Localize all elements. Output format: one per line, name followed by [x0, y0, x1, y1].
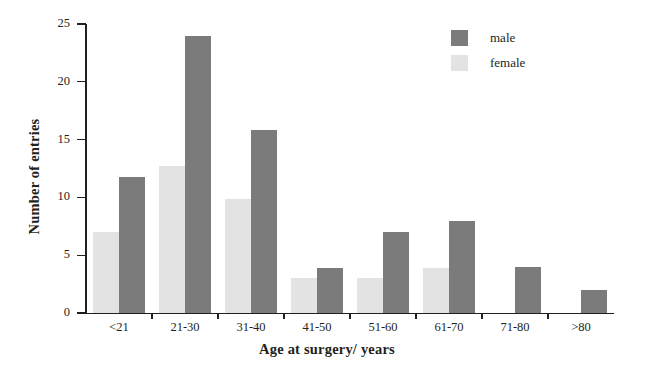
legend-label: male — [490, 30, 515, 46]
bar-female-<21 — [93, 232, 119, 313]
bar-female-41-50 — [291, 278, 317, 313]
x-tick-mark — [151, 313, 153, 319]
bar-female-21-30 — [159, 166, 185, 313]
y-tick-label: 15 — [24, 132, 70, 147]
x-tick-mark — [481, 313, 483, 319]
bar-male-31-40 — [251, 130, 277, 313]
bar-male-<21 — [119, 177, 145, 313]
y-tick-mark — [77, 197, 86, 198]
x-tick-mark — [349, 313, 351, 319]
bar-chart: Number of entries 0510152025 <2121-3031-… — [0, 0, 654, 374]
y-tick-label: 5 — [24, 247, 70, 262]
legend-swatch-icon — [451, 55, 468, 71]
y-tick-mark — [77, 81, 86, 82]
legend-swatch-icon — [451, 30, 468, 46]
y-tick-label: 20 — [24, 74, 70, 89]
bar-male-41-50 — [317, 268, 343, 313]
bar-male-71-80 — [515, 267, 541, 313]
x-tick-mark — [217, 313, 219, 319]
y-tick-mark — [77, 23, 86, 24]
y-tick-mark — [77, 139, 86, 140]
bar-male-61-70 — [449, 221, 475, 313]
legend-item-female: female — [451, 50, 611, 75]
bar-female-51-60 — [357, 278, 383, 313]
bar-male-51-60 — [383, 232, 409, 313]
chart-legend: malefemale — [451, 25, 611, 75]
bar-male-21-30 — [185, 36, 211, 313]
y-tick-label: 10 — [24, 189, 70, 204]
bar-female-61-70 — [423, 268, 449, 313]
x-tick-mark — [283, 313, 285, 319]
x-tick-mark — [547, 313, 549, 319]
x-axis-title: Age at surgery/ years — [0, 341, 654, 358]
y-tick-mark — [77, 255, 86, 256]
y-tick-label: 0 — [24, 305, 70, 320]
y-tick-label: 25 — [24, 16, 70, 31]
bar-male->80 — [581, 290, 607, 313]
legend-label: female — [490, 55, 525, 71]
x-tick-mark — [415, 313, 417, 319]
bar-female-31-40 — [225, 199, 251, 313]
legend-item-male: male — [451, 25, 611, 50]
x-tick-label: >80 — [541, 320, 621, 335]
